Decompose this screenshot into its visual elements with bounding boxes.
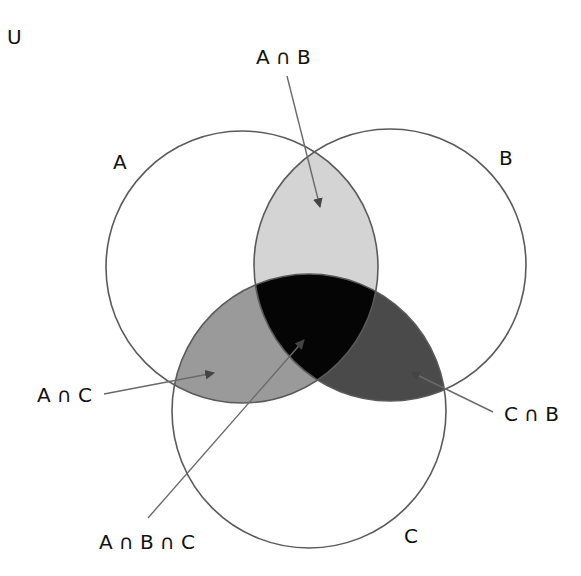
c-and-b-label: C ∩ B <box>504 402 559 426</box>
universe-label: U <box>7 25 22 49</box>
a-and-b-label: A ∩ B <box>256 45 311 69</box>
set-b-label: B <box>499 146 513 170</box>
set-c-label: C <box>404 524 418 548</box>
a-and-b-and-c-label: A ∩ B ∩ C <box>99 530 195 554</box>
a-and-c-label: A ∩ C <box>37 383 92 407</box>
venn-diagram: U A B C A ∩ B A ∩ C C ∩ B A ∩ B ∩ C <box>0 0 581 576</box>
set-a-label: A <box>113 150 127 174</box>
